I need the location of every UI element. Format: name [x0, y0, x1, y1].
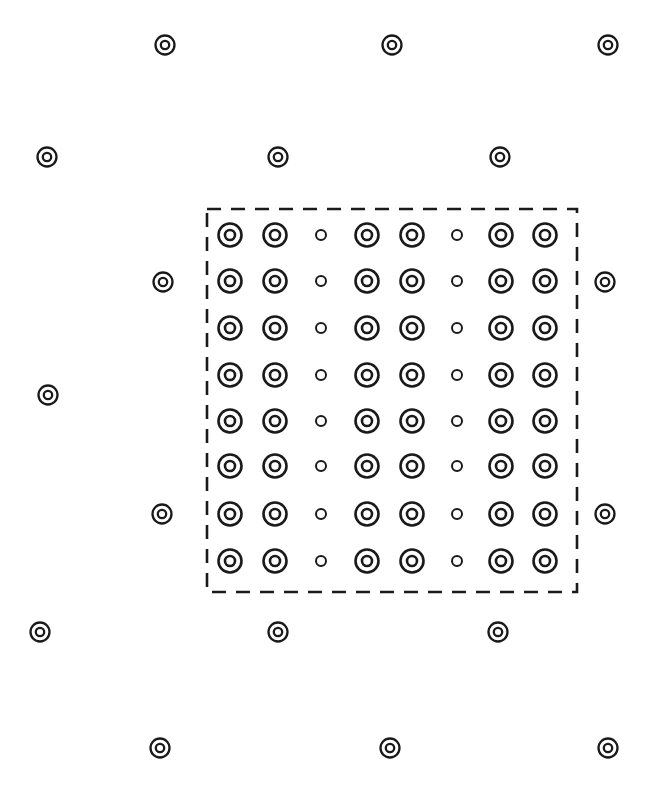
figure-background [0, 0, 654, 794]
lattice-figure [0, 0, 654, 794]
figure-canvas [0, 0, 654, 794]
